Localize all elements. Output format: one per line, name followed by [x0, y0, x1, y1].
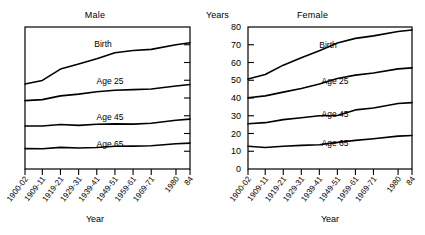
- data-line-birth: [248, 30, 412, 79]
- figure-life-expectancy: Male 1900-021909-111919-211929-311939-41…: [0, 0, 425, 235]
- series-label-age65: Age 65: [97, 139, 124, 149]
- y-tick-label: 50: [231, 75, 241, 85]
- series-label-age65: Age 65: [322, 138, 349, 148]
- chart-panel-female: Female Years 010203040506070801900-02190…: [200, 0, 425, 235]
- y-tick-label: 70: [231, 40, 241, 50]
- x-tick-label: 1980: [163, 174, 181, 194]
- y-tick-label: 20: [231, 129, 241, 139]
- series-label-age25: Age 25: [322, 76, 349, 86]
- x-tick-label: 1980: [385, 174, 403, 194]
- series-label-age45: Age 45: [97, 112, 124, 122]
- x-axis-title-male: Year: [0, 214, 190, 224]
- y-tick-label: 10: [231, 146, 241, 156]
- x-tick-label: 84: [405, 174, 418, 187]
- data-line-age-25: [25, 85, 190, 101]
- chart-panel-male: Male 1900-021909-111919-211929-311939-41…: [0, 0, 205, 235]
- series-label-birth: Birth: [319, 40, 337, 50]
- y-tick-label: 30: [231, 111, 241, 121]
- plot-area-female: 010203040506070801900-021909-111919-2119…: [200, 0, 425, 235]
- plot-area-male: 1900-021909-111919-211929-311939-411949-…: [0, 0, 205, 235]
- series-label-birth: Birth: [94, 39, 112, 49]
- x-axis-title-female: Year: [235, 214, 425, 224]
- y-tick-label: 40: [231, 93, 241, 103]
- y-tick-label: 0: [236, 164, 241, 174]
- series-label-age45: Age 45: [322, 109, 349, 119]
- x-tick-label: 84: [183, 174, 196, 187]
- y-tick-label: 60: [231, 58, 241, 68]
- series-label-age25: Age 25: [97, 76, 124, 86]
- y-tick-label: 80: [231, 22, 241, 32]
